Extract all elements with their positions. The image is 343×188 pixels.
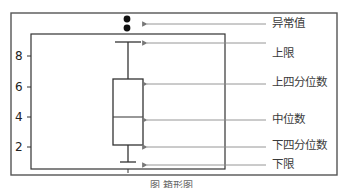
label-median: 中位数 [272, 114, 305, 126]
label-lower-limit: 下限 [272, 159, 294, 171]
annotation-arrows [147, 24, 266, 165]
label-upper-limit: 上限 [272, 48, 294, 60]
label-lower-quartile: 下四分位数 [272, 140, 327, 152]
outlier-points [124, 16, 131, 32]
label-upper-quartile: 上四分位数 [272, 77, 327, 89]
figure-caption: 图 箱形图 [0, 181, 343, 188]
y-tick-label-6: 6 [15, 81, 23, 93]
iqr-box [113, 79, 143, 145]
boxplot-figure: 2 4 6 8 异常值 上限 上四分位数 中位数 下四分位数 下限 图 箱形图 [0, 0, 343, 188]
y-tick-label-2: 2 [15, 141, 23, 153]
y-tick-label-8: 8 [15, 50, 23, 62]
y-tick-label-4: 4 [15, 111, 23, 123]
label-outlier: 异常值 [272, 18, 305, 30]
